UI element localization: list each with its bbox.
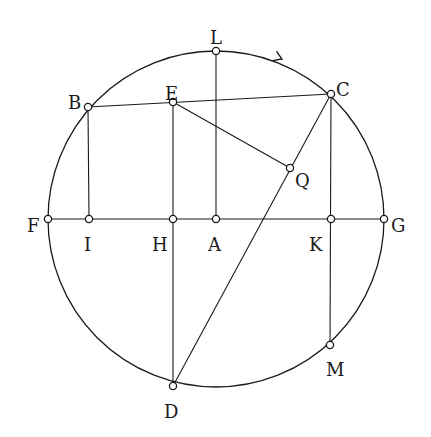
label-l: L bbox=[210, 27, 222, 48]
point-a bbox=[212, 215, 219, 222]
segment-bi bbox=[88, 107, 89, 219]
label-c: C bbox=[336, 79, 350, 100]
point-f bbox=[44, 215, 51, 222]
point-q bbox=[286, 164, 293, 171]
label-e: E bbox=[165, 83, 178, 104]
label-d: D bbox=[164, 401, 178, 422]
segment-cd bbox=[173, 94, 331, 386]
label-b: B bbox=[68, 92, 81, 113]
label-h: H bbox=[152, 234, 168, 255]
label-k: K bbox=[309, 234, 323, 255]
point-k bbox=[327, 215, 334, 222]
segment-eq bbox=[173, 102, 290, 168]
arc-direction-arrow-icon bbox=[273, 51, 282, 60]
point-l bbox=[212, 47, 219, 54]
point-g bbox=[380, 215, 387, 222]
geometry-diagram: LBECQFIHAKGMD bbox=[0, 0, 431, 437]
point-i bbox=[85, 215, 92, 222]
label-q: Q bbox=[295, 170, 310, 191]
label-m: M bbox=[326, 359, 344, 380]
point-b bbox=[84, 103, 91, 110]
point-h bbox=[169, 215, 176, 222]
arrow-icon bbox=[273, 51, 282, 60]
segment-bc bbox=[88, 94, 331, 107]
label-a: A bbox=[207, 234, 222, 255]
point-d bbox=[169, 382, 176, 389]
point-c bbox=[327, 90, 334, 97]
point-m bbox=[326, 341, 333, 348]
label-g: G bbox=[391, 215, 405, 236]
label-f: F bbox=[27, 215, 40, 236]
label-i: I bbox=[84, 234, 91, 255]
